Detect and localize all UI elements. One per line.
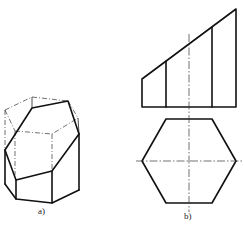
drawing-canvas bbox=[0, 0, 244, 228]
removed-top-left-edge bbox=[5, 110, 15, 131]
panel-b-label: b) bbox=[184, 211, 192, 221]
isometric-prism bbox=[5, 97, 79, 203]
cut-section-outline bbox=[5, 101, 79, 180]
panel-a-label: a) bbox=[38, 206, 45, 216]
